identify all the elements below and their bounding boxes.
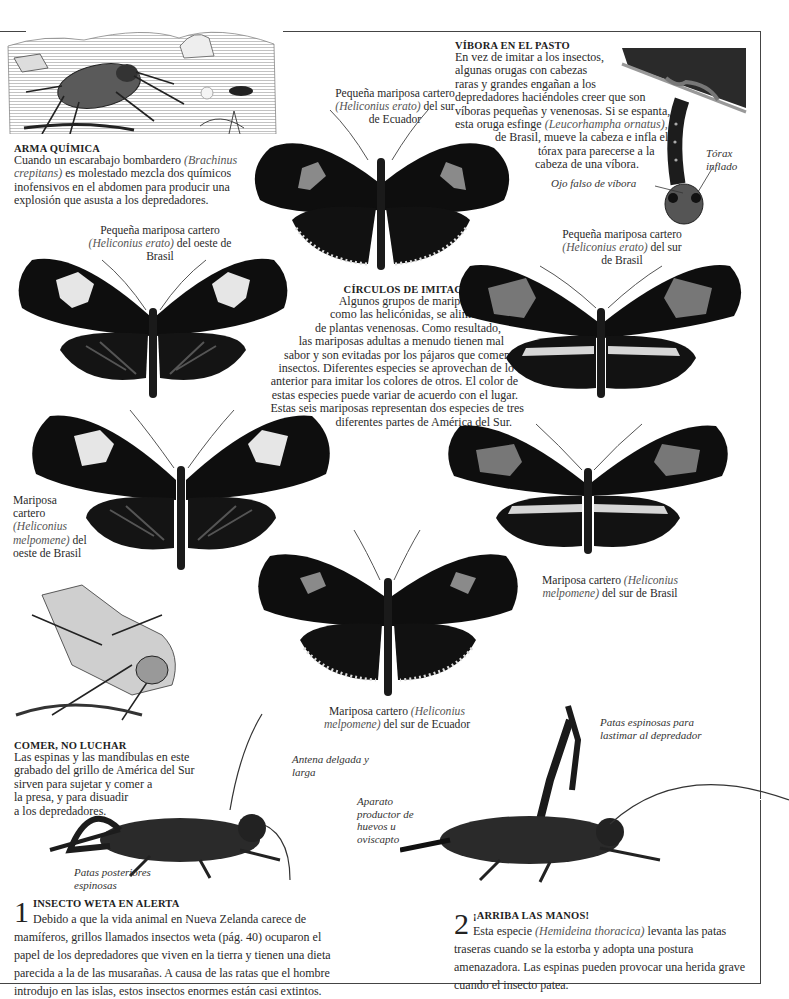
section-2-text: Esta especie (Hemideina thoracica) levan… xyxy=(454,924,745,992)
frame-right xyxy=(760,31,761,799)
butterfly-erato-oeste-brasil xyxy=(16,250,291,400)
butterfly-erato-sur-brasil xyxy=(456,258,744,398)
section-2-arriba-las-manos: 2 ¡ARRIBA LAS MANOS! Esta especie (Hemid… xyxy=(454,910,750,993)
south-american-cricket-engraving xyxy=(12,575,202,725)
section-2-title: ¡ARRIBA LAS MANOS! xyxy=(454,910,750,921)
label-patas-espinosas: Patas espinosas para lastimar al depreda… xyxy=(600,716,710,741)
arma-quimica-text: Cuando un escarabajo bombardero (Brachin… xyxy=(14,154,262,208)
label-patas-posteriores: Patas posteriores espinosas xyxy=(74,866,164,891)
pointer-lines-caterpillar xyxy=(550,140,750,200)
weta-alert-photo xyxy=(30,710,350,880)
butterfly-melpomene-ecuador xyxy=(254,530,522,700)
frame-top xyxy=(283,31,760,32)
section-1-insecto-weta: 1 INSECTO WETA EN ALERTA Debido a que la… xyxy=(14,898,344,999)
weta-hands-up-photo xyxy=(400,700,789,885)
label-aparato-productor: Aparato productor de huevos u oviscapto xyxy=(357,795,432,845)
sphinx-caterpillar-photo xyxy=(618,44,748,230)
caption-melpomene-sur-brasil: Mariposa cartero (Heliconius melpomene) … xyxy=(540,574,680,600)
arma-quimica-section: ARMA QUÍMICA Cuando un escarabajo bombar… xyxy=(14,143,262,208)
bombardier-beetle-engraving xyxy=(4,16,278,134)
section-1-title: INSECTO WETA EN ALERTA xyxy=(14,898,344,909)
section-1-number: 1 xyxy=(14,899,29,925)
label-antena-delgada: Antena delgada y larga xyxy=(292,753,372,778)
section-1-text: Debido a que la vida animal en Nueva Zel… xyxy=(14,912,331,998)
section-2-number: 2 xyxy=(454,911,469,937)
